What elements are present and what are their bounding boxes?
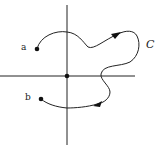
origin-point: [65, 74, 70, 79]
label-a: a: [21, 43, 26, 52]
arrow-icon: [93, 101, 102, 107]
point-b: [39, 97, 44, 102]
label-b: b: [25, 93, 31, 102]
curve-c: [37, 31, 139, 108]
diagram-canvas: a b C: [0, 0, 159, 147]
label-curve-c: C: [146, 39, 154, 50]
point-a: [35, 47, 40, 52]
diagram-svg: [0, 0, 159, 147]
arrow-icon: [111, 32, 121, 39]
